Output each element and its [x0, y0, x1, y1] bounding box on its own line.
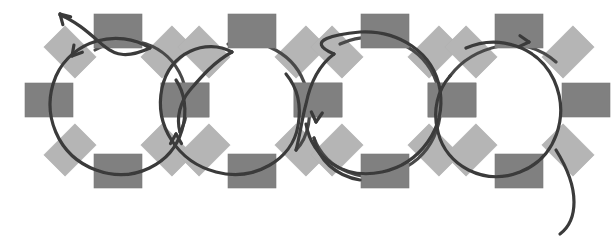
- nucleosome-chain-diagram: [0, 0, 612, 244]
- histone-block-dark: [294, 83, 342, 117]
- figure-root: Chromatin fiber schematic: chain of four…: [0, 0, 612, 244]
- histone-block-dark: [562, 83, 610, 117]
- histone-block-dark: [228, 14, 276, 48]
